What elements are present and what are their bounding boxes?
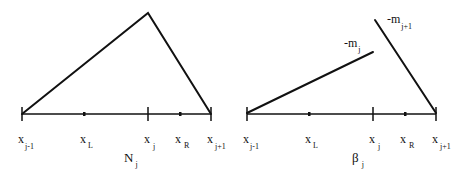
left-dot-xl: [83, 112, 86, 116]
left-dot-xr: [179, 112, 182, 116]
right-label-xr: xR: [400, 132, 415, 150]
left-caption-nj: Nj: [124, 150, 138, 169]
left-panel-nj: xj-1 xL xj xR xj+1 Nj: [18, 13, 226, 169]
right-dot-xl: [308, 112, 311, 116]
right-label-xl: xL: [305, 132, 318, 150]
right-label-mj+1: -mj+1: [387, 12, 412, 31]
right-label-xj-1: xj-1: [243, 132, 259, 151]
right-segment-mj: [247, 52, 373, 113]
left-label-xr: xR: [175, 132, 190, 150]
right-label-mj: -mj: [344, 36, 361, 54]
left-label-xl: xL: [80, 132, 93, 150]
right-caption-betaj: βj: [352, 150, 364, 169]
right-panel-betaj: -mj -mj+1 xj-1 xL xj xR xj+1 βj: [243, 12, 451, 169]
left-label-xj-1: xj-1: [18, 132, 34, 151]
left-hat-function: [22, 13, 211, 114]
left-label-xj: xj: [144, 132, 155, 151]
left-label-xj+1: xj+1: [207, 132, 226, 151]
right-segment-mj+1: [375, 20, 436, 113]
right-label-xj+1: xj+1: [432, 132, 451, 151]
right-dot-xr: [404, 112, 407, 116]
diagram-canvas: xj-1 xL xj xR xj+1 Nj -mj -mj+1 xj-1 xL …: [0, 0, 469, 178]
right-label-xj: xj: [369, 132, 380, 151]
